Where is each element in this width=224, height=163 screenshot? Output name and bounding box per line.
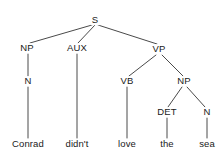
tree-node-vp: VP: [151, 44, 166, 54]
tree-edge: [78, 25, 95, 43]
tree-node-s: S: [91, 15, 100, 25]
tree-leaf-sea: sea: [199, 139, 215, 149]
tree-edge: [187, 87, 205, 107]
tree-node-n1: N: [23, 76, 32, 86]
tree-leaf-conrad: Conrad: [12, 139, 44, 149]
tree-node-aux: AUX: [66, 43, 88, 53]
tree-edge: [129, 55, 156, 76]
tree-leaf-the: the: [160, 139, 174, 149]
tree-node-vb: VB: [119, 76, 134, 86]
tree-node-np1: NP: [19, 43, 35, 53]
tree-edge: [30, 25, 92, 43]
tree-edge: [162, 55, 183, 76]
tree-leaf-love: love: [118, 139, 136, 149]
tree-edge: [98, 25, 157, 44]
syntax-tree-diagram: SNPAUXVPNVBNPDETNConraddidn'tlovethesea: [0, 0, 224, 163]
tree-leaf-didnt: didn't: [65, 139, 88, 149]
tree-node-np2: NP: [176, 76, 192, 86]
tree-node-n2: N: [202, 107, 211, 117]
tree-node-det: DET: [156, 107, 178, 117]
tree-edge: [168, 87, 182, 107]
